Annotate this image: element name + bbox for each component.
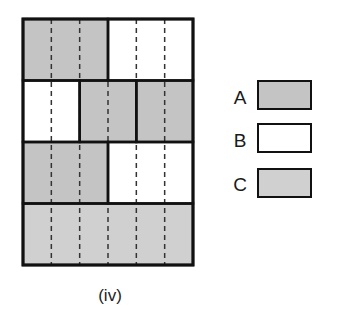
grid-block-a: [23, 19, 108, 81]
grid-block-b: [108, 142, 193, 204]
grid-block-b: [108, 19, 193, 81]
figure-canvas: A B C (iv): [0, 0, 337, 320]
legend-label-a: A: [232, 88, 248, 107]
legend-label-c: C: [232, 175, 248, 194]
legend-swatch-a: [257, 80, 312, 110]
figure-caption: (iv): [80, 286, 140, 306]
grid-block-a: [23, 142, 108, 204]
legend-label-b: B: [232, 131, 248, 150]
legend-swatch-b: [257, 123, 312, 153]
legend-swatch-c: [257, 168, 312, 198]
tiling-grid: [0, 0, 337, 320]
